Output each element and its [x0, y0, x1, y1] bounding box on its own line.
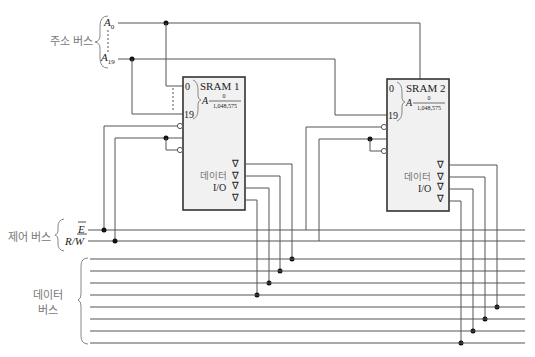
- control-bus-label: 제어 버스: [8, 231, 52, 244]
- tri-state-icon: ∇: [436, 159, 444, 170]
- sram1-d3-wire: [245, 200, 257, 295]
- tri-state-icon: ∇: [231, 180, 239, 191]
- sram1-range-top: 0: [223, 93, 226, 99]
- sram2-range-letter: A: [405, 97, 413, 108]
- memory-expansion-diagram: 주소 버스 A0 A19 0 19 SRAM 1 A 0 1,048,575 ∇…: [0, 0, 535, 357]
- junction-dot: [102, 228, 107, 233]
- tri-state-icon: ∇: [231, 158, 239, 169]
- sram2-chip: 0 19 SRAM 2 A 0 1,048,575 ∇ 데이터 ∇ I/O ∇ …: [306, 79, 449, 241]
- sram2-d1-wire: [449, 177, 485, 319]
- control-bus: 제어 버스 E R/W: [8, 219, 525, 251]
- sram1-io-label: I/O: [213, 182, 226, 193]
- data-bus-label-line1: 데이터: [33, 289, 63, 302]
- sram1-addr-start: 0: [185, 81, 190, 92]
- sram2-io-label: I/O: [418, 183, 431, 194]
- sram1-range-bottom: 1,048,575: [213, 103, 237, 109]
- data-bus-brace: [78, 258, 88, 344]
- sram1-cs-bubble: [177, 123, 182, 128]
- sram1-addr-end: 19: [184, 109, 194, 120]
- sram2-addr-start: 0: [389, 83, 394, 94]
- sram1-range-letter: A: [201, 95, 209, 106]
- sram1-rw-wire: [115, 138, 183, 241]
- data-bus-label-line2: 버스: [38, 304, 58, 317]
- sram2-d3-wire: [449, 201, 461, 343]
- tri-state-icon: ∇: [436, 193, 444, 204]
- rw-label: R/W: [64, 235, 85, 247]
- sram1-d1-wire: [245, 176, 280, 271]
- a19-to-sram2-wire: [335, 96, 387, 115]
- sram1-data-label: 데이터: [200, 170, 227, 181]
- sram1-data-wires: [245, 164, 295, 298]
- sram2-data-wires: [449, 165, 500, 346]
- sram1-title: SRAM 1: [200, 80, 239, 92]
- sram2-rw-wire: [319, 139, 387, 241]
- enable-label: E: [77, 223, 85, 235]
- sram2-range-bottom: 1,048,575: [417, 105, 441, 111]
- data-bus: 데이터 버스: [33, 258, 525, 344]
- sram1-oe-bubble: [177, 147, 182, 152]
- tri-state-icon: ∇: [436, 181, 444, 192]
- control-bus-brace: [55, 219, 64, 251]
- junction-dot: [113, 239, 118, 244]
- a0-label: A0: [103, 16, 115, 31]
- sram2-range-top: 0: [428, 95, 431, 101]
- address-bus-label: 주소 버스: [50, 35, 94, 48]
- sram2-oe-bubble: [381, 148, 386, 153]
- sram2-addr-end: 19: [388, 110, 398, 121]
- tri-state-icon: ∇: [231, 192, 239, 203]
- sram2-title: SRAM 2: [406, 82, 445, 94]
- sram1-chip: 0 19 SRAM 1 A 0 1,048,575 ∇ 데이터 ∇ I/O ∇ …: [104, 77, 245, 241]
- a19-label: A19: [100, 51, 115, 66]
- sram2-data-label: 데이터: [404, 171, 431, 182]
- sram2-cs-bubble: [381, 124, 386, 129]
- a0-to-sram1-wire: [166, 23, 183, 86]
